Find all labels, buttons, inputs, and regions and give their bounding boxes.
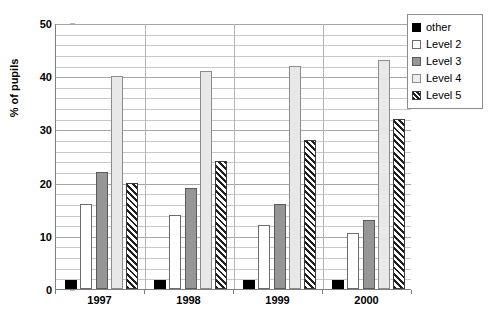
x-axis-tick-labels: 1997199819992000	[55, 294, 411, 314]
y-axis-tick-label: 40	[20, 72, 52, 83]
y-axis-tick-label: 30	[20, 125, 52, 136]
bar-other-1998	[154, 280, 166, 289]
bar-chart: % of pupils 50403020100 1997199819992000…	[0, 0, 490, 315]
bar-level-3-1997	[96, 172, 108, 289]
legend-item-other[interactable]: other	[412, 19, 478, 36]
bar-level-2-2000	[347, 233, 359, 289]
y-axis-tick-label: 0	[20, 285, 52, 296]
legend-item-label: other	[426, 22, 451, 33]
legend-item-label: Level 2	[426, 39, 461, 50]
x-axis-tick-mark	[144, 290, 145, 294]
hatched-square-swatch	[412, 91, 421, 100]
x-axis-tick-mark	[233, 290, 234, 294]
light-gray-square-swatch	[412, 74, 421, 83]
x-axis-tick-mark-origin	[55, 290, 56, 294]
bar-level-3-1999	[274, 204, 286, 289]
bar-other-1997	[65, 280, 77, 289]
legend-item-label: Level 5	[426, 90, 461, 101]
y-axis-tick-labels: 50403020100	[20, 0, 52, 315]
bar-group	[323, 24, 412, 289]
legend-item-level-3[interactable]: Level 3	[412, 53, 478, 70]
bar-level-3-2000	[363, 220, 375, 289]
x-axis-tick-label: 1999	[265, 294, 289, 306]
bar-level-2-1998	[169, 215, 181, 289]
bar-group	[145, 24, 234, 289]
bar-group	[234, 24, 323, 289]
y-axis-tick-label: 50	[20, 19, 52, 30]
legend-item-label: Level 4	[426, 73, 461, 84]
bar-level-5-2000	[393, 119, 405, 289]
x-axis-tick-label: 1997	[87, 294, 111, 306]
legend-item-level-4[interactable]: Level 4	[412, 70, 478, 87]
bar-other-2000	[332, 280, 344, 289]
white-square-swatch	[412, 40, 421, 49]
bar-level-4-2000	[378, 60, 390, 289]
bar-level-4-1999	[289, 66, 301, 289]
chart-legend: otherLevel 2Level 3Level 4Level 5	[407, 14, 483, 109]
black-square-swatch	[412, 23, 421, 32]
bar-level-4-1998	[200, 71, 212, 289]
bar-level-5-1998	[215, 161, 227, 289]
bar-other-1999	[243, 280, 255, 289]
bar-level-5-1997	[126, 183, 138, 289]
x-axis-tick-label: 2000	[354, 294, 378, 306]
gray-square-swatch	[412, 57, 421, 66]
legend-item-label: Level 3	[426, 56, 461, 67]
x-axis-tick-mark	[411, 290, 412, 294]
bar-level-5-1999	[304, 140, 316, 289]
bar-level-2-1999	[258, 225, 270, 289]
legend-item-level-5[interactable]: Level 5	[412, 87, 478, 104]
y-axis-tick-label: 20	[20, 178, 52, 189]
x-axis-tick-mark	[322, 290, 323, 294]
bar-group	[56, 24, 145, 289]
bar-level-2-1997	[80, 204, 92, 289]
x-axis-tick-label: 1998	[176, 294, 200, 306]
y-axis-tick-label: 10	[20, 231, 52, 242]
bars-layer	[56, 24, 411, 289]
plot-area	[55, 24, 411, 290]
bar-level-3-1998	[185, 188, 197, 289]
bar-level-4-1997	[111, 76, 123, 289]
legend-item-level-2[interactable]: Level 2	[412, 36, 478, 53]
